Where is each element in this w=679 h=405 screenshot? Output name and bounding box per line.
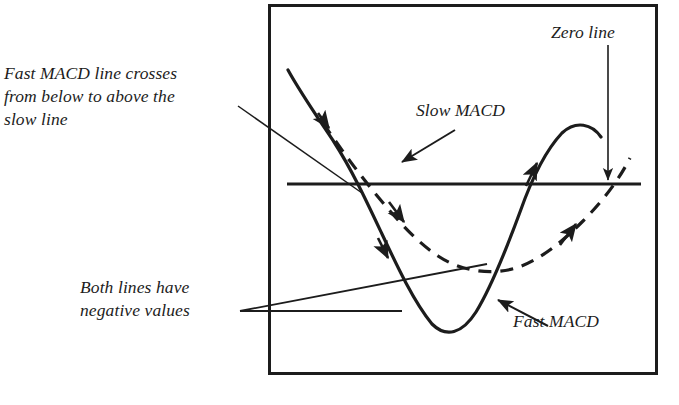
macd-crossover-figure: Fast MACD line crosses from below to abo…	[0, 0, 679, 405]
label-fast-macd: Fast MACD	[513, 310, 599, 333]
annotation-crossover: Fast MACD line crosses from below to abo…	[4, 62, 256, 130]
annotation-negative-values: Both lines have negative values	[80, 276, 290, 322]
chart-canvas	[0, 0, 679, 405]
label-slow-macd: Slow MACD	[416, 99, 505, 122]
slow-curve-direction-arrow-2	[560, 224, 576, 245]
slow-macd-leader-arrow	[402, 130, 455, 162]
slow-macd-curve	[323, 123, 630, 272]
label-zero-line: Zero line	[551, 21, 615, 44]
